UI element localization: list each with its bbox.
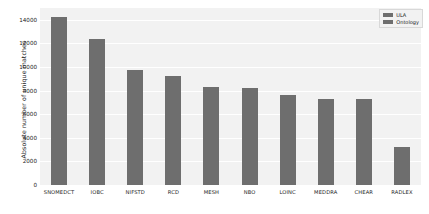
legend-item: Ontology — [383, 19, 419, 25]
plot-area — [40, 8, 421, 185]
bar — [356, 99, 372, 185]
x-axis-tick-label: IOBC — [91, 189, 104, 195]
legend-swatch — [383, 13, 393, 17]
bar — [280, 95, 296, 185]
y-axis-tick-label: 4000 — [0, 135, 37, 141]
bar — [165, 76, 181, 185]
x-axis-tick-label: CHEAR — [355, 189, 373, 195]
bar — [318, 99, 334, 185]
x-axis-tick-label: NIFSTD — [126, 189, 145, 195]
bar — [51, 17, 67, 185]
bar — [242, 88, 258, 185]
legend: ULAOntology — [379, 9, 423, 28]
bar — [127, 70, 143, 185]
y-axis-tick-label: 6000 — [0, 111, 37, 117]
gridline — [40, 20, 421, 21]
bar — [394, 147, 410, 185]
x-axis-tick-label: SNOMEDCT — [44, 189, 75, 195]
y-axis-tick-label: 14000 — [0, 17, 37, 23]
bar — [89, 39, 105, 185]
y-axis-tick-label: 0 — [0, 182, 37, 188]
legend-swatch — [383, 20, 393, 24]
x-axis-tick-label: RCD — [168, 189, 179, 195]
x-axis-tick-label: NBO — [244, 189, 256, 195]
x-axis-tick-label: MEDDRA — [314, 189, 337, 195]
legend-label: ULA — [396, 12, 406, 18]
y-axis-tick-label: 12000 — [0, 40, 37, 46]
y-axis-tick-label: 2000 — [0, 158, 37, 164]
legend-item: ULA — [383, 12, 419, 18]
x-axis-tick-label: MESH — [204, 189, 219, 195]
bar — [203, 87, 219, 185]
x-axis-tick-label: LOINC — [279, 189, 295, 195]
y-axis-tick-label: 8000 — [0, 88, 37, 94]
y-axis-tick-label: 10000 — [0, 64, 37, 70]
x-axis-tick-label: RADLEX — [391, 189, 412, 195]
legend-label: Ontology — [396, 19, 419, 25]
bar-chart-figure: Absolute number of unique matches 020004… — [0, 0, 429, 214]
